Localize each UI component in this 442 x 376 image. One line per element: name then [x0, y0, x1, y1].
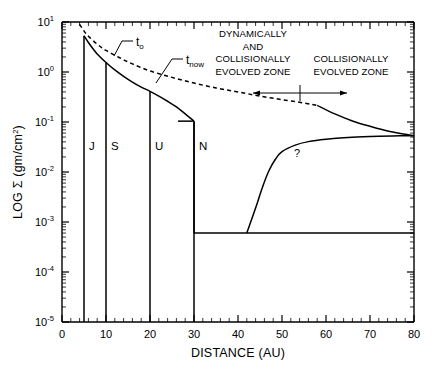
zone-extent-arrow [253, 85, 347, 101]
curve-speculative-rise [247, 136, 414, 233]
x-axis-tick-labels: 01020304050607080 [59, 328, 420, 340]
x-tick-label: 20 [144, 328, 156, 340]
uncertainty-question-mark: ? [294, 147, 300, 159]
zone-right-line-1: EVOLVED ZONE [313, 66, 388, 77]
x-tick-label: 30 [188, 328, 200, 340]
zone-label-collisionally: COLLISIONALLYEVOLVED ZONE [313, 53, 389, 77]
y-tick-label-base: 10 [35, 266, 47, 278]
y-tick-label: 10-4 [35, 264, 54, 278]
y-tick-label-exponent: -3 [47, 214, 54, 223]
y-axis-title: LOG Σ (gm/cm2) [11, 125, 25, 219]
zone-left-line-0: DYNAMICALLY [219, 28, 288, 39]
planet-label-j: J [89, 140, 95, 152]
y-tick-label-exponent: -5 [47, 314, 54, 323]
y-tick-label: 10-1 [35, 114, 54, 128]
y-axis-tick-labels: 10110010-110-210-310-410-5 [35, 14, 54, 328]
y-tick-label: 10-5 [35, 314, 54, 328]
x-tick-label: 50 [276, 328, 288, 340]
x-tick-label: 0 [59, 328, 65, 340]
t-zero-label: to [136, 35, 144, 51]
axis-titles: DISTANCE (AU) LOG Σ (gm/cm2) [11, 125, 285, 360]
zone-label-dynamically-collisionally: DYNAMICALLYANDCOLLISIONALLYEVOLVED ZONE [215, 28, 291, 77]
zone-left-line-1: AND [243, 41, 264, 52]
y-tick-label: 101 [38, 14, 54, 28]
y-axis-title-unit: (gm/cm [11, 134, 25, 181]
x-axis-title: DISTANCE (AU) [191, 346, 285, 360]
x-tick-label: 80 [408, 328, 420, 340]
y-axis-title-prefix: LOG [11, 188, 25, 219]
zone-left-line-2: COLLISIONALLY [215, 53, 291, 64]
y-tick-label: 100 [38, 64, 54, 78]
zone-right-line-0: COLLISIONALLY [313, 53, 389, 64]
t-now-label: tnow [186, 53, 204, 69]
y-axis-title-symbol: Σ [11, 180, 25, 188]
planet-label-u: U [155, 140, 163, 152]
y-tick-label-base: 10 [35, 316, 47, 328]
plot-canvas: 01020304050607080 10110010-110-210-310-4… [0, 0, 442, 376]
x-tick-label: 40 [232, 328, 244, 340]
y-tick-label-base: 10 [35, 216, 47, 228]
planet-markers-group: JSUN [84, 36, 207, 322]
y-tick-label-base: 10 [38, 66, 50, 78]
y-tick-label: 10-2 [35, 164, 54, 178]
y-tick-label-base: 10 [38, 16, 50, 28]
y-tick-label-exponent: 0 [50, 64, 54, 73]
y-tick-label-base: 10 [35, 166, 47, 178]
y-tick-label-exponent: -1 [47, 114, 54, 123]
y-tick-label: 10-3 [35, 214, 54, 228]
y-tick-label-base: 10 [35, 116, 47, 128]
y-axis-title-unit-close: ) [11, 125, 25, 129]
y-tick-label-exponent: -2 [47, 164, 54, 173]
surface-density-figure: 01020304050607080 10110010-110-210-310-4… [0, 0, 442, 376]
x-tick-label: 60 [320, 328, 332, 340]
y-tick-label-exponent: -4 [47, 264, 54, 273]
x-tick-label: 10 [100, 328, 112, 340]
planet-label-n: N [199, 140, 207, 152]
curve-outer-tail [317, 105, 414, 135]
zone-left-line-3: EVOLVED ZONE [215, 66, 290, 77]
y-tick-label-exponent: 1 [50, 14, 54, 23]
planet-label-s: S [111, 140, 119, 152]
curve-labels: to tnow [136, 35, 204, 69]
x-tick-label: 70 [364, 328, 376, 340]
